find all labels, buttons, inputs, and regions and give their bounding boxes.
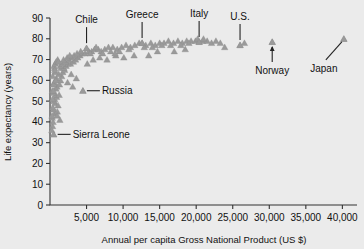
x-tick-label: 40,000: [327, 212, 358, 223]
axes: 01020304050607080905,00010,00015,00020,0…: [32, 13, 358, 223]
x-tick-label: 30,000: [254, 212, 285, 223]
data-point-marker: [123, 42, 130, 48]
data-point-marker: [64, 79, 71, 85]
y-tick-label: 50: [32, 96, 44, 107]
annotations: ChileGreeceItalyU.S.NorwayJapanRussiaSie…: [50, 8, 347, 140]
y-tick-label: 60: [32, 75, 44, 86]
y-tick-label: 70: [32, 54, 44, 65]
scatter-chart: 01020304050607080905,00010,00015,00020,0…: [0, 0, 364, 249]
data-point-marker: [84, 61, 91, 67]
data-point-marker: [171, 48, 178, 54]
annotated-point-marker: [269, 39, 276, 45]
annotation-label-norway: Norway: [255, 65, 289, 76]
x-tick-label: 15,000: [144, 212, 175, 223]
data-points: [49, 36, 348, 137]
annotation-label-chile: Chile: [75, 14, 98, 25]
data-point-marker: [68, 71, 75, 77]
annotated-point-marker: [80, 88, 87, 94]
x-tick-label: 5,000: [74, 212, 99, 223]
y-tick-label: 90: [32, 13, 44, 24]
leader-arrowhead: [270, 46, 275, 51]
x-tick-label: 20,000: [181, 212, 212, 223]
data-point-marker: [77, 48, 84, 54]
data-point-marker: [241, 40, 248, 46]
y-axis-title: Life expectancy (years): [2, 63, 13, 161]
x-tick-label: 10,000: [108, 212, 139, 223]
y-tick-label: 40: [32, 116, 44, 127]
x-tick-label: 25,000: [217, 212, 248, 223]
data-point-marker: [213, 38, 220, 44]
y-tick-label: 20: [32, 158, 44, 169]
leader-line: [326, 42, 342, 60]
annotated-point-marker: [341, 36, 348, 42]
chart-svg: 01020304050607080905,00010,00015,00020,0…: [0, 0, 364, 249]
x-axis-title: Annual per capita Gross National Product…: [102, 234, 307, 245]
annotation-label-sierra-leone: Sierra Leone: [73, 129, 131, 140]
annotation-label-japan: Japan: [310, 63, 337, 74]
annotated-point-marker: [83, 45, 90, 51]
x-tick-label: 35,000: [291, 212, 322, 223]
data-point-marker: [145, 52, 152, 58]
data-point-marker: [121, 54, 128, 60]
data-point-marker: [148, 40, 155, 46]
annotation-label-greece: Greece: [126, 9, 159, 20]
data-point-marker: [131, 52, 138, 58]
data-point-marker: [175, 38, 182, 44]
annotation-label-u-s-: U.S.: [230, 11, 249, 22]
y-tick-label: 10: [32, 179, 44, 190]
y-tick-label: 30: [32, 137, 44, 148]
data-point-marker: [90, 56, 97, 62]
annotation-label-italy: Italy: [190, 8, 208, 19]
annotation-label-russia: Russia: [102, 85, 133, 96]
data-point-marker: [104, 56, 111, 62]
data-point-marker: [200, 36, 207, 42]
y-tick-label: 0: [37, 200, 43, 211]
y-tick-label: 80: [32, 33, 44, 44]
